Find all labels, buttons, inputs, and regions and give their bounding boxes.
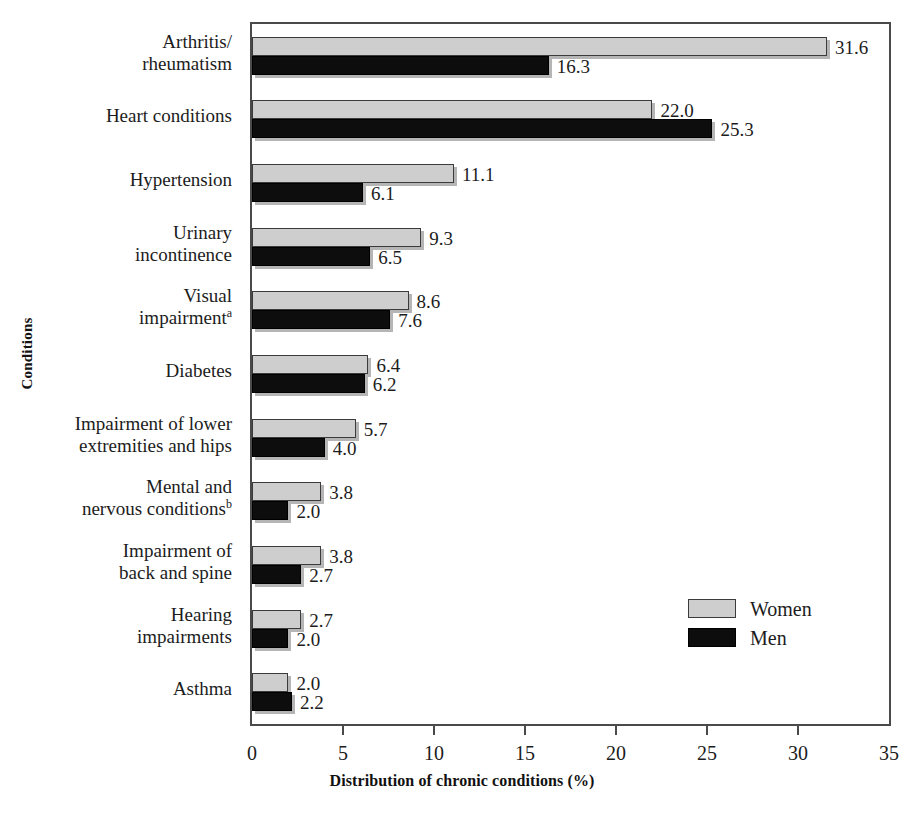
bar-value-label: 2.0	[296, 630, 320, 649]
x-axis-tick	[615, 724, 617, 735]
bar-women-8	[252, 546, 321, 565]
x-axis-tick	[433, 724, 435, 735]
x-axis-tick	[342, 724, 344, 735]
bar-men-3	[252, 247, 370, 266]
bar-value-label: 7.6	[398, 311, 422, 330]
bar-value-label: 3.8	[329, 483, 353, 502]
footnote-marker: a	[227, 306, 232, 320]
legend-label: Men	[750, 625, 787, 651]
bar-value-label: 9.3	[429, 229, 453, 248]
bar-value-label: 5.7	[364, 420, 388, 439]
legend-item: Women	[688, 596, 848, 625]
bar-value-label: 6.2	[373, 375, 397, 394]
legend-label: Women	[750, 596, 812, 622]
category-label: Impairment ofback and spine	[0, 540, 232, 584]
bar-value-label: 2.7	[309, 611, 333, 630]
category-label: Hypertension	[0, 169, 232, 191]
x-axis-tick-label: 10	[404, 742, 464, 765]
bar-men-1	[252, 119, 712, 138]
bar-value-label: 6.4	[376, 356, 400, 375]
chart-legend: WomenMen	[688, 596, 848, 654]
bar-women-7	[252, 482, 321, 501]
legend-swatch-women	[688, 599, 736, 618]
bar-value-label: 3.8	[329, 547, 353, 566]
bar-women-6	[252, 419, 356, 438]
bar-women-0	[252, 37, 827, 56]
bar-value-label: 22.0	[660, 101, 693, 120]
bar-women-1	[252, 100, 652, 119]
bar-men-9	[252, 629, 288, 648]
legend-item: Men	[688, 625, 848, 654]
bar-women-4	[252, 291, 409, 310]
x-axis-tick-label: 30	[768, 742, 828, 765]
x-axis-tick-label: 0	[222, 742, 282, 765]
bar-value-label: 6.1	[371, 184, 395, 203]
category-label: Impairment of lowerextremities and hips	[0, 413, 232, 457]
bar-women-9	[252, 610, 301, 629]
bar-women-10	[252, 673, 288, 692]
bar-value-label: 2.0	[296, 674, 320, 693]
category-label: Urinaryincontinence	[0, 222, 232, 266]
legend-swatch-men	[688, 628, 736, 647]
bar-men-5	[252, 374, 365, 393]
bar-women-2	[252, 164, 454, 183]
bar-value-label: 2.2	[300, 693, 324, 712]
bar-value-label: 8.6	[417, 292, 441, 311]
bar-value-label: 16.3	[557, 57, 590, 76]
x-axis-tick-label: 15	[495, 742, 555, 765]
category-label-column: Arthritis/rheumatismHeart conditionsHype…	[0, 22, 242, 722]
x-axis-tick	[524, 724, 526, 735]
category-label: Asthma	[0, 678, 232, 700]
bar-value-label: 6.5	[378, 248, 402, 267]
x-axis-title: Distribution of chronic conditions (%)	[0, 772, 924, 790]
bar-men-10	[252, 692, 292, 711]
bar-value-label: 2.0	[296, 502, 320, 521]
bar-men-7	[252, 501, 288, 520]
category-label: Visualimpairmenta	[0, 285, 232, 329]
x-axis-tick	[797, 724, 799, 735]
bar-women-5	[252, 355, 368, 374]
bar-women-3	[252, 228, 421, 247]
bar-men-2	[252, 183, 363, 202]
category-label: Mental andnervous conditionsb	[0, 476, 232, 520]
category-label: Hearingimpairments	[0, 604, 232, 648]
bar-value-label: 25.3	[720, 120, 753, 139]
chart-figure: Conditions Arthritis/rheumatismHeart con…	[0, 0, 924, 821]
bar-men-6	[252, 438, 325, 457]
category-label: Arthritis/rheumatism	[0, 31, 232, 75]
x-axis-tick-label: 25	[677, 742, 737, 765]
x-axis-tick-label: 5	[313, 742, 373, 765]
bar-value-label: 11.1	[462, 165, 495, 184]
category-label: Heart conditions	[0, 105, 232, 127]
category-label: Diabetes	[0, 360, 232, 382]
bar-men-0	[252, 56, 549, 75]
bar-men-8	[252, 565, 301, 584]
bar-value-label: 31.6	[835, 38, 868, 57]
x-axis-tick-label: 35	[859, 742, 919, 765]
x-axis-tick	[706, 724, 708, 735]
x-axis-tick-label: 20	[586, 742, 646, 765]
footnote-marker: b	[226, 497, 232, 511]
bar-men-4	[252, 310, 390, 329]
bar-value-label: 4.0	[333, 439, 357, 458]
bar-value-label: 2.7	[309, 566, 333, 585]
